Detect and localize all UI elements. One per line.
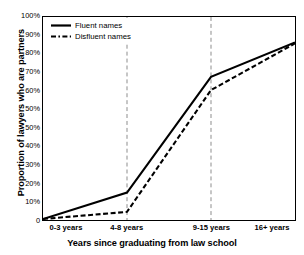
series-group [43,42,295,219]
x-tick-label: 0-3 years [50,224,83,232]
y-tick-label: 50% [18,124,40,131]
x-axis-tick-labels: 0-3 years4-8 years9-15 years16+ years [42,224,296,238]
x-axis-title: Years since graduating from law school [0,239,304,248]
solid-line-swatch [51,22,71,29]
y-tick-label: 50% [18,105,40,112]
plot-area: Fluent names Disfluent names [42,16,296,221]
y-axis-tick-labels: 100%90%80%70%60%50%50%40%30%20%10%0 [18,16,40,221]
plot-canvas [43,17,295,220]
y-tick-label: 20% [18,180,40,187]
x-tick-label: 9-15 years [193,224,230,232]
y-tick-label: 10% [18,199,40,206]
y-tick-label: 60% [18,87,40,94]
y-tick-label: 90% [18,31,40,38]
x-tick-label: 4-8 years [110,224,143,232]
y-tick-label: 30% [18,161,40,168]
x-tick-label: 16+ years [255,224,290,232]
y-tick-label: 40% [18,143,40,150]
legend-label-disfluent-names: Disfluent names [75,33,131,41]
chart-legend: Fluent names Disfluent names [49,18,135,44]
y-tick-label: 70% [18,68,40,75]
legend-item-fluent-names: Fluent names [51,20,131,31]
series-line-2 [43,43,295,219]
y-tick-label: 0 [18,217,40,224]
line-chart-figure: Proportion of lawyers who are partners 1… [0,0,304,255]
series-line-1 [43,42,295,219]
legend-label-fluent-names: Fluent names [75,22,122,30]
legend-item-disfluent-names: Disfluent names [51,31,131,42]
y-tick-label: 80% [18,50,40,57]
dashed-line-swatch [51,33,71,40]
gridline-group [127,17,211,220]
y-tick-label: 100% [18,12,40,19]
